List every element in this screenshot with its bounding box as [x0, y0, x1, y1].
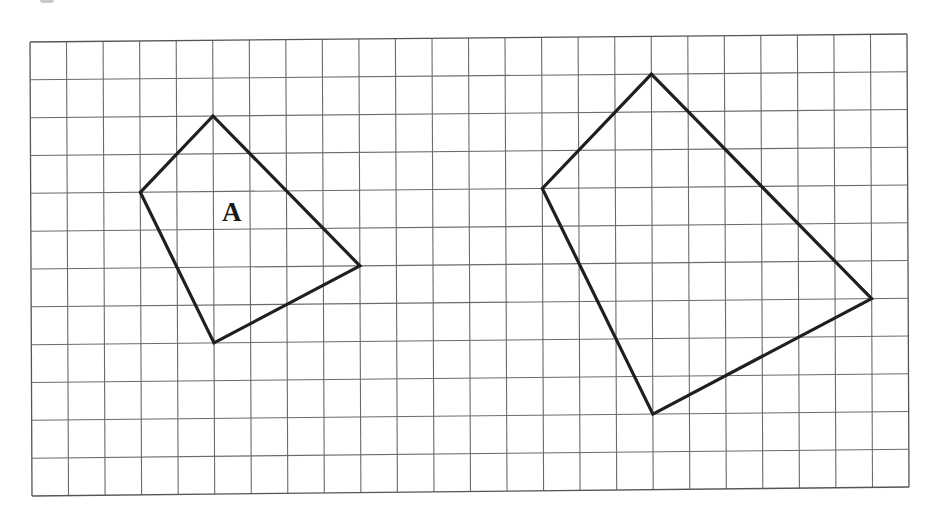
- shape-label-a: A: [222, 197, 242, 227]
- square-grid: [30, 34, 909, 496]
- quadrilateral-enlarged: [542, 74, 871, 414]
- grid-diagram: A: [0, 0, 936, 514]
